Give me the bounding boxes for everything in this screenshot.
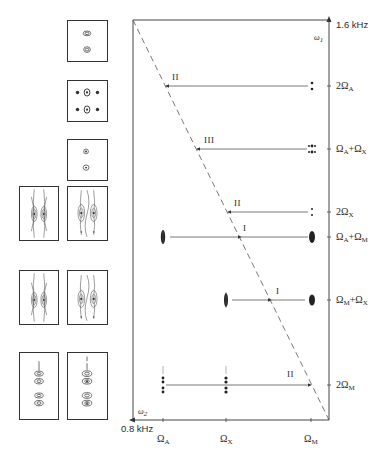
- y-tick-2omega-x: 2ΩX: [336, 207, 354, 219]
- x-axis-symbol: ω2: [138, 408, 147, 418]
- transition-label: I: [276, 286, 280, 296]
- x-tick-omega-m: ΩM: [304, 434, 318, 446]
- y-tick-2omega-a: 2ΩA: [336, 81, 354, 93]
- x-axis-arrowhead: [129, 418, 135, 423]
- x-axis-left-label: 0.8 kHz: [121, 424, 153, 434]
- y-tick-omega-a-plus-m: ΩA+ΩM: [336, 232, 368, 244]
- y-axis-top-label: 1.6 kHz: [336, 20, 368, 30]
- y-tick-2omega-m: 2ΩM: [336, 380, 355, 392]
- y-tick-omega-a-plus-x: ΩA+ΩX: [336, 144, 367, 156]
- diagonal-line: [133, 20, 329, 420]
- transition-label: III: [204, 135, 215, 145]
- x-tick-omega-a: ΩA: [157, 434, 170, 446]
- transition-label: II: [172, 72, 179, 82]
- y-axis-arrowhead: [327, 16, 332, 22]
- spectrum-plot: [0, 0, 385, 459]
- y-tick-omega-m-plus-x: ΩM+ΩX: [336, 295, 368, 307]
- transition-label: II: [234, 198, 241, 208]
- transition-label: I: [243, 223, 247, 233]
- transition-label: II: [287, 369, 294, 379]
- x-tick-omega-x: ΩX: [220, 434, 233, 446]
- y-axis-symbol: ω1: [314, 34, 323, 44]
